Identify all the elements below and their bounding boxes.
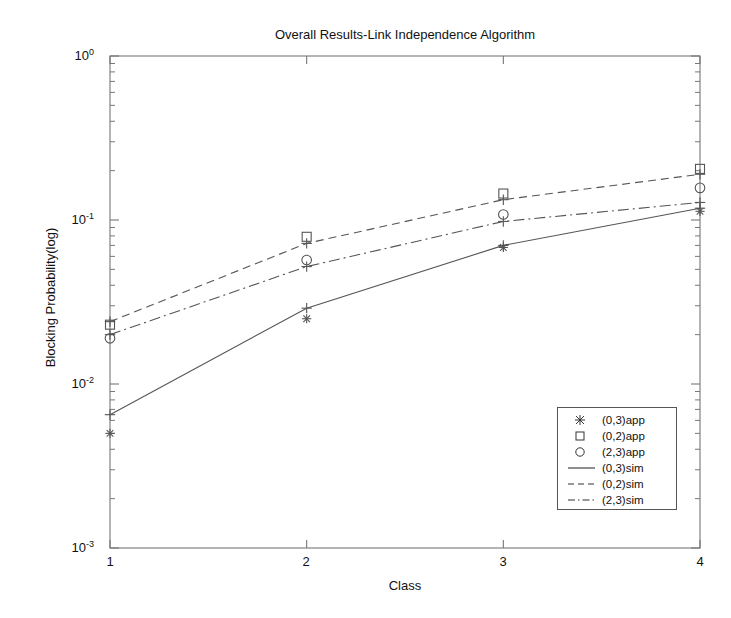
chart-legend: (0,3)app (0,2)app (2,3)app (0,3)sim: [557, 407, 677, 510]
legend-label: (0,2)app: [602, 430, 645, 442]
data-point-plus: [301, 238, 311, 248]
legend-label: (0,3)app: [602, 414, 645, 426]
data-point-plus: [498, 194, 508, 204]
legend-item-2: (2,3)app: [562, 444, 671, 460]
legend-item-3: (0,3)sim: [562, 460, 671, 476]
plot-area: [0, 0, 731, 618]
data-point-plus: [301, 303, 311, 313]
chart-figure: Overall Results-Link Independence Algori…: [0, 0, 731, 618]
square-marker-icon: [562, 428, 602, 444]
legend-item-1: (0,2)app: [562, 428, 671, 444]
series-(2,3)sim: [105, 197, 705, 340]
data-point-plus: [105, 409, 115, 419]
legend-item-0: (0,3)app: [562, 412, 671, 428]
dashed-line-icon: [562, 476, 602, 492]
data-point-plus: [105, 329, 115, 339]
series-(0,2)app: [106, 164, 705, 329]
data-series-layer: [105, 164, 705, 438]
data-point-plus: [695, 197, 705, 207]
star-marker-icon: [562, 412, 602, 428]
legend-label: (0,2)sim: [602, 478, 644, 490]
legend-item-4: (0,2)sim: [562, 476, 671, 492]
legend-label: (2,3)app: [602, 446, 645, 458]
legend-item-5: (2,3)sim: [562, 492, 671, 508]
legend-label: (2,3)sim: [602, 494, 644, 506]
dashdot-line-icon: [562, 492, 602, 508]
legend-label: (0,3)sim: [602, 462, 644, 474]
data-point-star: [105, 429, 114, 438]
data-point-star: [302, 314, 311, 323]
series-(2,3)app: [105, 183, 705, 343]
series-(0,3)app: [105, 207, 704, 438]
series-(0,2)sim: [105, 169, 705, 327]
data-point-plus: [498, 240, 508, 250]
circle-marker-icon: [562, 444, 602, 460]
solid-line-icon: [562, 460, 602, 476]
data-point-plus: [105, 316, 115, 326]
series-(0,3)sim: [105, 203, 705, 420]
